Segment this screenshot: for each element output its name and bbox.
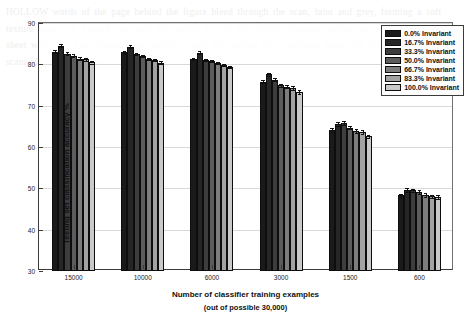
error-bar-cap — [430, 198, 434, 199]
x-tick-mark — [74, 265, 75, 269]
error-bar-cap — [141, 57, 145, 58]
error-bar-cap — [53, 53, 57, 54]
x-tick-label: 6000 — [205, 274, 219, 281]
legend-swatch-icon — [385, 48, 401, 55]
error-bar-cap — [273, 81, 277, 82]
error-bar-cap — [90, 64, 94, 65]
error-bar-cap — [361, 134, 365, 135]
error-bar-cap — [66, 55, 70, 56]
error-bar-cap — [228, 68, 232, 69]
legend-item[interactable]: 0.0% Invariant — [385, 29, 459, 38]
error-bar-cap — [267, 73, 271, 74]
error-bar-cap — [66, 52, 70, 53]
error-bar-cap — [228, 66, 232, 67]
error-bar-cap — [90, 61, 94, 62]
error-bar-cap — [298, 90, 302, 91]
error-bar-cap — [141, 55, 145, 56]
legend-label: 100.0% Invariant — [404, 83, 459, 92]
error-bar-cap — [399, 194, 403, 195]
error-bar-cap — [436, 195, 440, 196]
legend-item[interactable]: 33.3% Invariant — [385, 47, 459, 56]
y-tick-mark — [39, 271, 43, 272]
error-bar-cap — [216, 64, 220, 65]
error-bar-cap — [204, 59, 208, 60]
legend-item[interactable]: 50.0% Invariant — [385, 56, 459, 65]
x-axis-label: Number of classifier training examples — [38, 290, 453, 299]
error-bar-cap — [367, 138, 371, 139]
error-bar-cap — [210, 62, 214, 63]
legend-swatch-icon — [385, 84, 401, 91]
error-bar-cap — [348, 126, 352, 127]
legend-item[interactable]: 16.7% Invariant — [385, 38, 459, 47]
error-bar-cap — [204, 61, 208, 62]
error-bar-cap — [198, 54, 202, 55]
y-tick-mark — [39, 230, 43, 231]
error-bar-cap — [53, 50, 57, 51]
error-bar-cap — [135, 53, 139, 54]
error-bar-cap — [78, 60, 82, 61]
legend-swatch-icon — [385, 30, 401, 37]
error-bar-cap — [267, 76, 271, 77]
error-bar-cap — [411, 189, 415, 190]
legend-swatch-icon — [385, 66, 401, 73]
error-bar-cap — [210, 60, 214, 61]
error-bar-cap — [84, 58, 88, 59]
error-bar-cap — [348, 129, 352, 130]
error-bar-cap — [436, 199, 440, 200]
error-bar-cap — [261, 80, 265, 81]
error-bar-cap — [330, 128, 334, 129]
legend-swatch-icon — [385, 39, 401, 46]
legend-item[interactable]: 100.0% Invariant — [385, 83, 459, 92]
error-bar-cap — [153, 61, 157, 62]
error-bar-cap — [159, 61, 163, 62]
x-tick-mark — [281, 265, 282, 269]
x-tick-label: 1500 — [343, 274, 357, 281]
error-bar-cap — [159, 64, 163, 65]
error-bar-cap — [273, 78, 277, 79]
legend-item[interactable]: 83.3% Invariant — [385, 74, 459, 83]
error-bar-cap — [147, 58, 151, 59]
figure-canvas: HOLLOW words of the page behind the figu… — [0, 0, 473, 325]
error-bar-cap — [279, 87, 283, 88]
x-tick-label: 600 — [414, 274, 425, 281]
gridline — [39, 23, 452, 24]
x-tick-mark — [212, 265, 213, 269]
error-bar-cap — [367, 135, 371, 136]
error-bar-cap — [399, 197, 403, 198]
bar — [435, 197, 441, 271]
y-tick-mark — [39, 147, 43, 148]
gridline — [39, 106, 452, 107]
error-bar-cap — [123, 51, 127, 52]
gridline — [39, 188, 452, 189]
error-bar-cap — [291, 86, 295, 87]
error-bar-cap — [147, 60, 151, 61]
error-bar-cap — [342, 125, 346, 126]
y-tick-mark — [39, 23, 43, 24]
y-tick-label: 50 — [28, 185, 35, 192]
error-bar-cap — [222, 66, 226, 67]
y-tick-label: 80 — [28, 61, 35, 68]
y-tick-label: 30 — [28, 268, 35, 275]
legend-item[interactable]: 66.7% Invariant — [385, 65, 459, 74]
legend-label: 33.3% Invariant — [404, 47, 455, 56]
bar — [296, 92, 302, 271]
error-bar-cap — [298, 94, 302, 95]
error-bar-cap — [424, 193, 428, 194]
legend-swatch-icon — [385, 57, 401, 64]
error-bar-cap — [424, 197, 428, 198]
error-bar-cap — [418, 194, 422, 195]
error-bar-cap — [355, 133, 359, 134]
gridline — [39, 230, 452, 231]
error-bar-cap — [84, 61, 88, 62]
error-bar-cap — [342, 121, 346, 122]
legend-label: 16.7% Invariant — [404, 38, 455, 47]
error-bar-cap — [129, 45, 133, 46]
y-tick-mark — [39, 64, 43, 65]
error-bar-cap — [123, 54, 127, 55]
legend-label: 50.0% Invariant — [404, 56, 455, 65]
y-tick-label: 70 — [28, 102, 35, 109]
y-tick-mark — [39, 188, 43, 189]
legend-label: 83.3% Invariant — [404, 74, 455, 83]
error-bar-cap — [355, 129, 359, 130]
bar — [89, 62, 95, 271]
